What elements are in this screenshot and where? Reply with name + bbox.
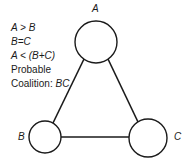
condition-a-gt-b: A > B	[11, 21, 69, 35]
node-c-label: C	[174, 131, 181, 142]
node-a-label: A	[92, 3, 99, 14]
node-b-circle	[29, 121, 61, 153]
condition-b-eq-c: B=C	[11, 35, 69, 49]
edge-a-c	[108, 59, 138, 122]
coalition-line: Coalition: BC	[11, 77, 69, 91]
conditions-text: A > B B=C A < (B+C) Probable Coalition: …	[11, 21, 69, 91]
probable-label: Probable	[11, 63, 69, 77]
node-c-circle	[129, 119, 167, 157]
coalition-diagram: A B C A > B B=C A < (B+C) Probable Coali…	[0, 0, 191, 163]
coalition-label: Coalition:	[11, 78, 55, 89]
node-a-circle	[75, 21, 117, 63]
node-b-label: B	[18, 131, 25, 142]
coalition-value: BC	[55, 78, 69, 89]
condition-a-lt-bc: A < (B+C)	[11, 49, 69, 63]
